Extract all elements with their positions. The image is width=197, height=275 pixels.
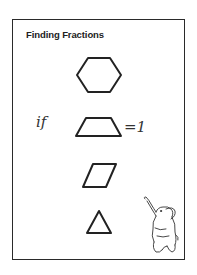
rhombus-shape bbox=[83, 164, 116, 187]
trapezoid-shape bbox=[76, 118, 121, 136]
elephant-icon bbox=[144, 197, 178, 252]
handwritten-equals-one: =1 bbox=[124, 118, 146, 136]
triangle-shape bbox=[87, 211, 111, 233]
hexagon-shape bbox=[77, 58, 121, 92]
worksheet-figures: if =1 bbox=[0, 0, 197, 275]
handwritten-if: if bbox=[36, 113, 49, 131]
